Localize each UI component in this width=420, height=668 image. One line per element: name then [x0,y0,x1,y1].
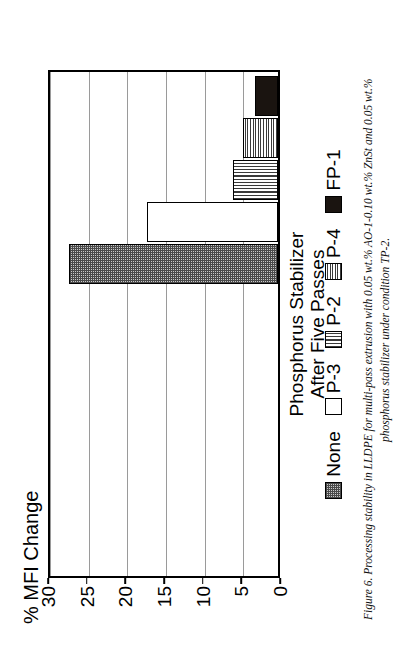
y-tick-mark [279,578,281,584]
figure-caption-container: Figure 6. Processing stability in LLDPE … [360,60,406,620]
y-tick-mark [163,578,165,584]
y-tick-mark [86,578,88,584]
y-tick-mark [202,578,204,584]
bar-series [50,72,278,576]
y-tick-label: 15 [155,586,174,607]
y-tick-label: 0 [271,586,290,597]
legend-label: P-2 [324,296,343,326]
legend-swatch-none-icon [325,482,342,499]
figure-page: % MFI Change 051015202530 Phosphorus Sta… [0,0,420,668]
bar-p-2 [233,160,278,200]
chart-container: % MFI Change 051015202530 Phosphorus Sta… [18,30,348,630]
y-tick-mark [241,578,243,584]
legend-swatch-p-3-icon [325,398,342,415]
legend-swatch-fp-1-icon [325,196,342,213]
bar-p-4 [243,118,278,158]
y-tick-mark [125,578,127,584]
plot-area [48,70,280,578]
caption-line-2: phosphorus stabilizer under condition TP… [377,60,394,620]
legend-swatch-p-4-icon [325,263,342,280]
legend-label: P-4 [324,229,343,259]
y-axis-ticks: 051015202530 [48,578,280,630]
bar-chart: % MFI Change 051015202530 Phosphorus Sta… [18,30,348,630]
legend-label: FP-1 [324,149,343,190]
legend-label: None [324,431,343,476]
x-axis-title-line1: Phosphorus Stabilizer [286,70,307,578]
y-tick-label: 5 [232,586,251,597]
y-tick-label: 25 [77,586,96,607]
legend-item-p-2[interactable]: P-2 [324,296,343,348]
bar-fp-1 [255,76,278,116]
legend-item-p-3[interactable]: P-3 [324,364,343,416]
y-tick-label: 20 [116,586,135,607]
y-tick-label: 10 [193,586,212,607]
y-tick-mark [47,578,49,584]
figure-caption: Figure 6. Processing stability in LLDPE … [360,60,395,620]
caption-line-1: Figure 6. Processing stability in LLDPE … [360,60,377,620]
legend-item-none[interactable]: None [324,431,343,498]
legend-item-p-4[interactable]: P-4 [324,229,343,281]
legend-swatch-p-2-icon [325,331,342,348]
legend-label: P-3 [324,364,343,394]
y-tick-label: 30 [39,586,58,607]
chart-legend: NoneP-3P-2P-4FP-1 [324,70,343,578]
bar-p-3 [147,202,278,242]
legend-item-fp-1[interactable]: FP-1 [324,149,343,212]
bar-none [69,244,278,284]
